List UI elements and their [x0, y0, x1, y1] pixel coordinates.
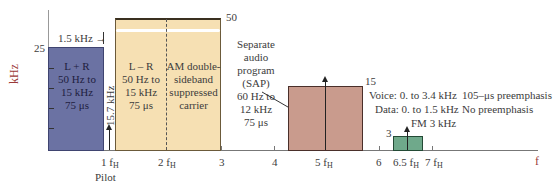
- gap-marker: [103, 32, 104, 44]
- xtick-label-1fh: 1 fH: [101, 156, 119, 172]
- ytick: [49, 128, 54, 129]
- xtick-label-7fh: 7 fH: [425, 156, 443, 172]
- y-value-50: 50: [226, 11, 237, 24]
- fm-spec: FM 3 kHz: [411, 117, 456, 130]
- xtick-label-4: 4: [272, 156, 278, 169]
- voice-spec: Voice: 0. to 3.4 kHz: [369, 89, 457, 102]
- band-pro: [393, 136, 423, 151]
- y-value-15: 15: [365, 75, 376, 88]
- xtick-label-6-5fh: 6.5 fH: [393, 156, 419, 172]
- x-axis-label: f: [535, 155, 539, 168]
- xtick: [274, 146, 275, 151]
- pro-carrier-line: [407, 130, 408, 150]
- xtick: [221, 146, 222, 151]
- xtick-label-6: 6: [376, 156, 382, 169]
- pilot-arrow-shaft: [109, 128, 110, 150]
- sap-carrier-line: [325, 80, 326, 150]
- y-value-25: 25: [34, 42, 45, 55]
- xtick: [379, 146, 380, 151]
- arrow-up-icon: [404, 126, 410, 132]
- data-preemphasis: No preemphasis: [462, 103, 533, 116]
- band-l-minus-r-text: L – R 50 Hz to 15 kHz 75 μs: [117, 60, 165, 112]
- axis-break: [116, 29, 220, 32]
- xtick-label-5fh: 5 fH: [315, 156, 333, 172]
- xtick: [432, 146, 433, 151]
- data-spec: Data: 0. to 1.5 kHz: [375, 103, 459, 116]
- xtick-label-2fh: 2 fH: [158, 156, 176, 172]
- y-axis-label: kHz: [8, 64, 21, 84]
- pilot-label: Pilot: [95, 171, 116, 184]
- gap-width-label: 1.5 kHz →: [58, 32, 107, 45]
- arrow-right-icon: →: [96, 32, 107, 44]
- y-value-3: 3: [386, 127, 392, 140]
- band-am-dsb-text: AM double- sideband suppressed carrier: [166, 60, 221, 112]
- band-l-plus-r-text: L + R 50 Hz to 15 kHz 75 μs: [50, 60, 104, 112]
- xtick-label-3: 3: [219, 156, 225, 169]
- voice-preemphasis: 105–μs preemphasis: [462, 89, 552, 102]
- arrow-up-icon: [322, 76, 328, 82]
